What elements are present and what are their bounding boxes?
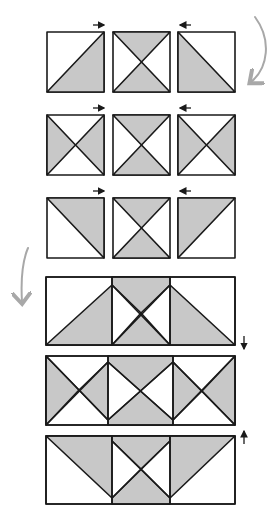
- unit-row3-center-hourglass: [113, 198, 170, 258]
- unit-row2-center-hourglass: [113, 115, 170, 175]
- unit-row1-left-hst: [47, 32, 104, 92]
- joined-row-2: [46, 356, 235, 425]
- unit-row2-right-hourglass: [178, 115, 235, 175]
- curved-arrow-icon: [22, 248, 28, 302]
- joined-row-3: [46, 436, 235, 504]
- joined-row-1: [46, 277, 235, 345]
- curved-arrow-icon: [251, 17, 266, 82]
- unit-row3-left-hst: [47, 198, 104, 258]
- unit-row1-center-hourglass: [113, 32, 170, 92]
- quilt-diagram: [0, 0, 270, 518]
- unit-row3-right-hst: [178, 198, 235, 258]
- unit-row1-right-hst: [178, 32, 235, 92]
- unit-row2-left-hourglass: [47, 115, 104, 175]
